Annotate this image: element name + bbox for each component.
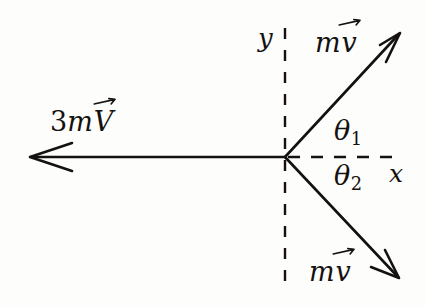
incoming-momentum-coefficient: 3 — [50, 106, 67, 137]
incoming-momentum-vector — [30, 143, 285, 171]
incoming-momentum-vector-letter: V — [94, 106, 114, 137]
angle-theta-1-label: θ1 — [334, 117, 362, 148]
lower-momentum-mass-symbol: m — [309, 256, 335, 287]
upper-momentum-vector-symbol: v — [341, 29, 358, 56]
lower-momentum-vector-symbol: v — [335, 258, 352, 285]
theta-2-symbol: θ — [334, 160, 350, 191]
incoming-momentum-label: 3mV — [50, 108, 114, 135]
theta-1-subscript: 1 — [350, 128, 362, 149]
upper-momentum-vector-letter: v — [342, 27, 357, 58]
outgoing-momentum-lower-label: mv — [309, 258, 352, 285]
incoming-momentum-vector-symbol: V — [93, 108, 115, 135]
angle-theta-2-label: θ2 — [334, 162, 362, 193]
y-axis-label: y — [258, 25, 273, 51]
incoming-momentum-mass-symbol: m — [67, 106, 93, 137]
lower-momentum-vector-letter: v — [336, 256, 351, 287]
vector-diagram-canvas — [0, 0, 425, 307]
outgoing-momentum-upper-label: mv — [315, 29, 358, 56]
x-axis-label: x — [389, 161, 403, 186]
theta-2-subscript: 2 — [350, 173, 362, 194]
momentum-vector-diagram: y x 3mV mv mv θ1 θ2 — [0, 0, 425, 307]
theta-1-symbol: θ — [334, 115, 350, 146]
upper-momentum-mass-symbol: m — [315, 27, 341, 58]
